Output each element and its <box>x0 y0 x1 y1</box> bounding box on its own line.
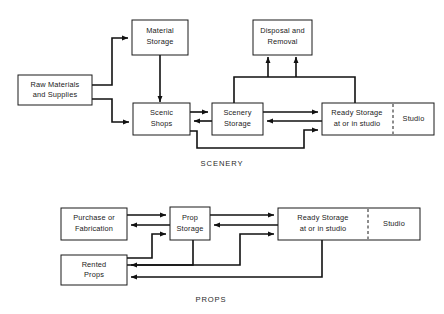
connector-prop-storage-to-rented-props <box>131 240 193 265</box>
connector-raw-to-scenic-shops <box>92 99 129 122</box>
flow-diagram-svg: Raw Materials and Supplies Material Stor… <box>0 0 444 314</box>
section-title-scenery: SCENERY <box>201 159 244 168</box>
box-prop-storage-label-line1: Prop <box>182 213 198 222</box>
connector-ready-storage-to-rented-props <box>131 240 322 277</box>
box-studio-props-label: Studio <box>383 219 405 228</box>
box-purchase-label-line2: Fabrication <box>75 224 113 233</box>
connector-rented-props-to-prop-storage <box>127 234 166 258</box>
box-raw-materials[interactable]: Raw Materials and Supplies <box>18 75 92 105</box>
box-material-storage-label-line1: Material <box>146 26 174 35</box>
connector-disposal-bus <box>234 77 355 106</box>
box-scenery-storage-label-line2: Storage <box>224 119 251 128</box>
box-ready-storage-scenery-label-line2: at or in studio <box>334 119 381 128</box>
box-disposal-label-line1: Disposal and <box>260 26 305 35</box>
box-material-storage[interactable]: Material Storage <box>132 20 188 55</box>
box-purchase-label-line1: Purchase or <box>73 213 115 222</box>
box-studio-scenery-label: Studio <box>403 114 425 123</box>
box-ready-storage-props-label-line1: Ready Storage <box>297 213 348 222</box>
scenery-section: Raw Materials and Supplies Material Stor… <box>18 20 434 168</box>
props-section: Purchase or Fabrication Prop Storage Ren… <box>61 207 420 304</box>
box-prop-storage[interactable]: Prop Storage <box>170 207 210 240</box>
connector-raw-to-material-storage <box>92 38 128 85</box>
flow-diagram-canvas: Raw Materials and Supplies Material Stor… <box>0 0 444 314</box>
box-rented-props[interactable]: Rented Props <box>61 255 127 285</box>
box-ready-storage-props-label-line2: at or in studio <box>300 224 347 233</box>
box-ready-storage-scenery-label-line1: Ready Storage <box>331 108 382 117</box>
box-rented-props-label-line2: Props <box>84 270 104 279</box>
box-purchase-or-fabrication[interactable]: Purchase or Fabrication <box>61 208 127 240</box>
section-title-props: PROPS <box>195 295 226 304</box>
box-ready-storage-scenery[interactable]: Ready Storage at or in studio Studio <box>322 103 434 135</box>
box-disposal-and-removal[interactable]: Disposal and Removal <box>253 20 312 55</box>
box-scenery-storage-label-line1: Scenery <box>223 108 251 117</box>
box-scenic-shops-label-line1: Scenic <box>150 108 173 117</box>
box-material-storage-label-line2: Storage <box>147 37 174 46</box>
box-prop-storage-label-line2: Storage <box>177 224 204 233</box>
box-raw-materials-label-line2: and Supplies <box>33 90 78 99</box>
box-raw-materials-label-line1: Raw Materials <box>31 80 80 89</box>
box-disposal-label-line2: Removal <box>267 37 297 46</box>
box-rented-props-label-line1: Rented <box>82 260 107 269</box>
box-scenery-storage[interactable]: Scenery Storage <box>212 103 263 135</box>
box-scenic-shops[interactable]: Scenic Shops <box>133 103 190 135</box>
box-scenic-shops-label-line2: Shops <box>151 119 173 128</box>
box-ready-storage-props[interactable]: Ready Storage at or in studio Studio <box>278 208 420 240</box>
